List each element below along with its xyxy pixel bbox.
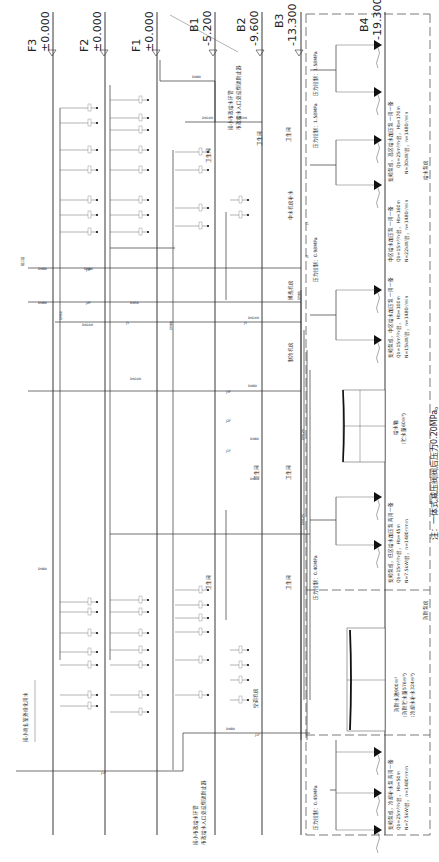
level-label-b2: B2 -9.600 <box>235 11 261 46</box>
svg-text:（消防贮水量576m³）: （消防贮水量576m³） <box>401 670 408 720</box>
svg-text:-5.200: -5.200 <box>201 11 214 46</box>
elevation-marker-icon <box>209 50 217 56</box>
level-label-b1: B1 -5.200 <box>188 11 214 46</box>
svg-text:B4: B4 <box>358 17 371 32</box>
fixture-outlet-icon <box>96 651 98 653</box>
svg-text:N=7.5kW/台，n=1480r/min: N=7.5kW/台，n=1480r/min <box>403 766 410 830</box>
level-label-f3: F3 ±0.000 <box>26 11 52 52</box>
svg-text:F3: F3 <box>26 39 39 52</box>
svg-text:±0.000: ±0.000 <box>143 11 156 52</box>
svg-text:消防水池900m³: 消防水池900m³ <box>393 677 400 712</box>
fixture-outlet-icon <box>147 231 149 233</box>
pump-spec-cooling: 变频泵组，冷却补水泵 两用一备 Qb=25m³/h·台，Hb=50m N=7.5… <box>387 759 410 830</box>
room-label-toilet: 卫生间 <box>205 575 212 590</box>
fixture-outlet-icon <box>207 659 209 661</box>
room-label-toilet-b2b: 卫生间 <box>256 131 263 146</box>
fixture-outlet-icon <box>147 611 149 613</box>
fixture-outlet-icon <box>147 199 149 201</box>
svg-text:DN80: DN80 <box>250 437 259 441</box>
pipe-code-tags: J1F J2F J1 J1 J3F J2F J1F J1F J1F J2 J3 <box>85 222 309 775</box>
fixture-outlet-icon <box>96 632 98 634</box>
svg-text:-19.300: -19.300 <box>371 0 384 40</box>
pump-spec-high: 变频泵组，高区给水加压泵 一用一备 Qb=25m³/h·台，Hb=170m N=… <box>387 101 410 182</box>
supply-tank: 给水箱 （贮水量60m³） <box>343 390 407 462</box>
svg-text:（冷却水补水324m³）: （冷却水补水324m³） <box>409 670 416 720</box>
svg-text:中区给水加压泵 一用一备: 中区给水加压泵 一用一备 <box>387 206 394 262</box>
svg-text:DN80: DN80 <box>38 267 47 271</box>
svg-text:F2: F2 <box>78 39 91 52</box>
fixture-outlet-icon <box>147 117 149 119</box>
room-label-toilet-b2: 卫生间 <box>285 127 292 142</box>
fixture-outlet-icon <box>207 169 209 171</box>
svg-text:N=22kW/台，n=1480r/min: N=22kW/台，n=1480r/min <box>403 199 410 262</box>
fixture-outlet-icon <box>147 149 149 151</box>
svg-text:DN80: DN80 <box>38 301 47 305</box>
svg-text:J3F: J3F <box>225 390 231 394</box>
fixture-outlet-icon <box>207 631 209 633</box>
fixture-outlet-icon <box>96 107 98 109</box>
svg-text:±0.000: ±0.000 <box>39 11 52 52</box>
svg-text:DN80: DN80 <box>248 384 257 388</box>
fixture-outlet-icon <box>147 632 149 634</box>
pipe-tags: DN80 DN80 DN80 DN80 DN50 DN100 DN100 DN8… <box>38 75 305 731</box>
fixture-outlet-icon <box>96 199 98 201</box>
svg-text:N=15kW/台，n=1480r/min: N=15kW/台，n=1480r/min <box>403 295 410 358</box>
fixture-outlet-icon <box>207 617 209 619</box>
level-label-f2: F2 ±0.000 <box>78 11 104 52</box>
svg-text:Qb=15m³/h·台，Hb=45m: Qb=15m³/h·台，Hb=45m <box>395 523 402 583</box>
svg-text:N=7.5kW/台，n=1480r/min: N=7.5kW/台，n=1480r/min <box>403 519 410 583</box>
fixture-branches <box>60 96 249 715</box>
fixture-outlet-icon <box>247 664 249 666</box>
svg-text:F1: F1 <box>130 39 143 52</box>
level-label-b4: B4 -19.300 <box>358 0 384 40</box>
svg-text:变频泵组，冷却补水泵 两用一备: 变频泵组，冷却补水泵 两用一备 <box>387 759 394 830</box>
svg-text:DN80: DN80 <box>192 75 201 79</box>
fixture-outlet-icon <box>247 199 249 201</box>
fixture-outlet-icon <box>247 649 249 651</box>
svg-text:Qb=25m³/h·台，Hb=50m: Qb=25m³/h·台，Hb=50m <box>395 770 402 830</box>
fixture-outlet-icon <box>207 604 209 606</box>
svg-text:-13.300: -13.300 <box>286 4 299 46</box>
svg-text:N=30kW/台，n=1480r/min: N=30kW/台，n=1480r/min <box>403 111 410 174</box>
svg-text:DN80: DN80 <box>226 727 235 731</box>
svg-text:-9.600: -9.600 <box>248 11 261 46</box>
riser-diagram-svg: F3 ±0.000 F2 ±0.000 F1 ±0.000 B1 -5.200 … <box>0 0 439 862</box>
svg-text:DN100: DN100 <box>130 377 141 381</box>
svg-text:J1F: J1F <box>85 268 91 272</box>
fixture-outlet-icon <box>96 122 98 124</box>
pressure-label-high: 压力控制：1.58MPa <box>312 51 319 96</box>
svg-text:市政给水入口处设倒流防止器: 市政给水入口处设倒流防止器 <box>235 65 242 130</box>
svg-text:±0.000: ±0.000 <box>91 11 104 52</box>
svg-text:J1F: J1F <box>254 733 260 737</box>
svg-text:Qb=15m³/h·台，Hb=160m: Qb=15m³/h·台，Hb=160m <box>395 200 402 262</box>
room-label-toilet: 卫生间 <box>285 575 292 590</box>
pressure-label-low: 压力控制：0.40MPa <box>312 555 319 600</box>
fixture-outlet-icon <box>147 169 149 171</box>
fixture-outlet-icon <box>96 214 98 216</box>
svg-text:B3: B3 <box>273 13 286 28</box>
pressure-label-cooling: 压力控制：0.45MPa <box>312 785 319 830</box>
riser-diagram: F3 ±0.000 F2 ±0.000 F1 ±0.000 B1 -5.200 … <box>0 0 439 862</box>
room-label-reclaimed: 中水机房补水 <box>287 190 294 220</box>
fire-cooling-tank: 消防水池900m³ （消防贮水量576m³） （冷却水补水324m³） <box>347 628 416 731</box>
pump-spec-low: 变频泵组，低区给水加压泵 两用一备 Qb=15m³/h·台，Hb=45m N=7… <box>387 502 410 583</box>
room-label-toilet-b1: 卫生间 <box>205 148 212 163</box>
fixture-outlet-icon <box>96 694 98 696</box>
fixture-outlet-icon <box>96 611 98 613</box>
svg-text:J1F: J1F <box>225 449 231 453</box>
elevation-marker-icon <box>256 50 264 56</box>
svg-text:DN80: DN80 <box>169 321 173 330</box>
pump-room-label-fire: 消防泵房 <box>422 600 429 620</box>
svg-text:B2: B2 <box>235 17 248 32</box>
svg-text:J1: J1 <box>243 321 247 325</box>
svg-text:（贮水量60m³）: （贮水量60m³） <box>400 410 407 447</box>
fixture-outlet-icon <box>147 711 149 713</box>
fixture-outlet-icon <box>147 99 149 101</box>
fixture-outlet-icon <box>96 231 98 233</box>
svg-text:DN125: DN125 <box>301 514 305 525</box>
level-labels: F3 ±0.000 F2 ±0.000 F1 ±0.000 B1 -5.200 … <box>26 0 384 56</box>
fixture-outlet-icon <box>147 649 149 651</box>
svg-text:Qb=25m³/h·台，Hb=170m: Qb=25m³/h·台，Hb=170m <box>395 106 402 168</box>
svg-text:DN50: DN50 <box>130 301 139 305</box>
svg-text:接小市政给水环管: 接小市政给水环管 <box>192 805 199 845</box>
